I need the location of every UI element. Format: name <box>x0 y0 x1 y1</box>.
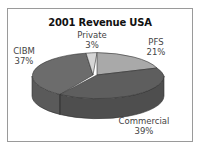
label-private: Private 3% <box>74 30 110 50</box>
label-commercial: Commercial 39% <box>116 116 172 136</box>
label-cibm: CIBM 37% <box>6 46 42 66</box>
label-pfs: PFS 21% <box>138 37 174 57</box>
